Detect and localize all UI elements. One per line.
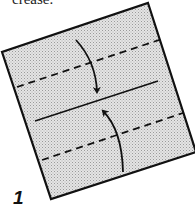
step-number: 1 xyxy=(13,188,24,207)
origami-fold-diagram xyxy=(0,0,195,209)
